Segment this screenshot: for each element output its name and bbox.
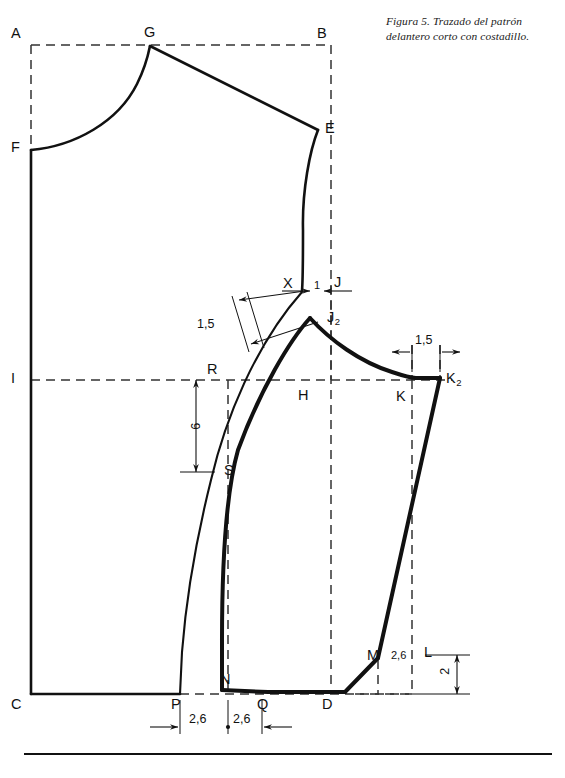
- dimension-label-x-j: 1: [314, 280, 320, 291]
- point-label-i: I: [11, 371, 15, 386]
- dimension-label-n-q: 2,6: [233, 713, 250, 726]
- point-label-x: X: [283, 276, 293, 291]
- point-label-l: L: [424, 645, 432, 660]
- footer-divider: [24, 753, 552, 755]
- point-label-k: K: [396, 389, 406, 404]
- dimension-label-p-n: 2,6: [189, 713, 206, 726]
- dimension-line-shoulder-lower: [251, 322, 318, 344]
- pattern-figure: Figura 5. Trazado del patrón delantero c…: [0, 0, 565, 778]
- pattern-drawing: [0, 0, 565, 778]
- point-label-e: E: [325, 121, 335, 136]
- panel-edge-J2-S-N: [222, 318, 310, 690]
- point-label-s: S: [224, 463, 234, 478]
- panel-hem-N-Q-D: [222, 690, 345, 692]
- dimension-label-m-l: 2,6: [391, 650, 406, 661]
- panel-armhole-J2-K: [310, 318, 416, 378]
- point-label-g: G: [144, 25, 155, 40]
- point-label-h: H: [298, 388, 308, 403]
- point-label-p: P: [171, 697, 181, 712]
- figure-caption-line2: delantero corto con costadillo.: [386, 30, 529, 42]
- point-label-j: J: [334, 275, 341, 290]
- panel-side-seam-K2-M: [378, 378, 440, 658]
- outline-shoulder-GE: [150, 46, 318, 130]
- dimension-label-k-k2: 1,5: [415, 334, 432, 347]
- point-label-a: A: [11, 26, 21, 41]
- outline-armhole-EX: [302, 130, 318, 291]
- dimension-label-shoulder-diag: 1,5: [197, 318, 214, 331]
- figure-caption-line1: Figura 5. Trazado del patrón: [386, 15, 522, 27]
- point-label-c: C: [11, 697, 21, 712]
- point-label-r: R: [207, 362, 217, 377]
- point-label-m: M: [367, 648, 379, 663]
- point-label-b: B: [317, 26, 327, 41]
- point-label-k2: K2: [446, 371, 461, 386]
- dimension-label-l-vertical: 2: [439, 660, 452, 682]
- dimension-ext-shoulder-right: [247, 292, 264, 348]
- point-label-f: F: [11, 140, 20, 155]
- point-label-j2: J2: [327, 310, 340, 325]
- outline-neckline-FG: [31, 46, 150, 150]
- dimension-label-r-s: 6: [190, 413, 203, 439]
- panel-hem-M-bevel: [345, 658, 378, 692]
- point-label-n: N: [220, 672, 230, 687]
- point-label-q: Q: [257, 697, 268, 712]
- point-label-d: D: [322, 697, 332, 712]
- dimension-ext-shoulder-left: [232, 296, 249, 352]
- dimension-lines: [150, 291, 470, 734]
- figure-caption: Figura 5. Trazado del patrón delantero c…: [386, 14, 558, 44]
